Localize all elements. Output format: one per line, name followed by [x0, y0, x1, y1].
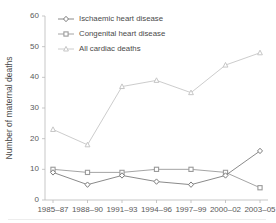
data-point-marker — [189, 182, 194, 187]
data-point-marker — [189, 167, 193, 171]
x-tick-label: 1985–87 — [37, 205, 69, 214]
y-axis: 0102030405060 — [30, 11, 45, 204]
data-point-marker — [154, 78, 159, 83]
legend-marker-icon — [64, 16, 69, 21]
chart-container: 0102030405060 1985–871988–901991–931994–… — [0, 0, 276, 223]
data-point-marker — [258, 186, 262, 190]
x-tick-label: 1991–93 — [106, 205, 138, 214]
x-tick-label: 2000–02 — [210, 205, 242, 214]
x-axis: 1985–871988–901991–931994–961997–992000–… — [37, 200, 276, 214]
y-tick-label: 40 — [30, 72, 39, 81]
data-point-marker — [154, 179, 159, 184]
y-axis-title: Number of maternal deaths — [4, 57, 14, 160]
data-point-marker — [120, 84, 125, 89]
data-point-marker — [223, 62, 228, 67]
data-point-marker — [85, 142, 90, 147]
legend-marker-icon — [64, 46, 69, 51]
y-tick-label: 60 — [30, 11, 39, 20]
data-point-marker — [258, 148, 263, 153]
y-tick-label: 30 — [30, 103, 39, 112]
legend-label: All cardiac deaths — [79, 44, 141, 53]
data-point-marker — [51, 127, 56, 132]
legend-item[interactable]: Congenital heart disease — [58, 29, 165, 38]
data-point-marker — [258, 50, 263, 55]
x-tick-label: 1994–96 — [141, 205, 173, 214]
legend-item[interactable]: All cardiac deaths — [58, 44, 141, 53]
data-point-marker — [154, 167, 158, 171]
legend-item[interactable]: Ischaemic heart disease — [58, 14, 163, 23]
plot-area — [51, 50, 263, 190]
y-tick-label: 50 — [30, 42, 39, 51]
y-tick-label: 10 — [30, 164, 39, 173]
legend-label: Congenital heart disease — [79, 29, 165, 38]
maternal-deaths-line-chart: 0102030405060 1985–871988–901991–931994–… — [0, 0, 276, 223]
y-tick-label: 20 — [30, 134, 39, 143]
x-tick-label: 1997–99 — [175, 205, 207, 214]
series-line — [53, 53, 260, 145]
x-tick-label: 1988–90 — [72, 205, 104, 214]
data-point-marker — [85, 170, 89, 174]
scan-artifact-line — [8, 219, 266, 220]
series-all-cardiac-deaths — [51, 50, 263, 147]
data-point-marker — [85, 182, 90, 187]
y-tick-label: 0 — [35, 195, 40, 204]
x-tick-label: 2003–05 — [244, 205, 276, 214]
legend-marker-icon — [64, 32, 68, 36]
chart-legend: Ischaemic heart diseaseCongenital heart … — [58, 14, 165, 53]
legend-label: Ischaemic heart disease — [79, 14, 163, 23]
